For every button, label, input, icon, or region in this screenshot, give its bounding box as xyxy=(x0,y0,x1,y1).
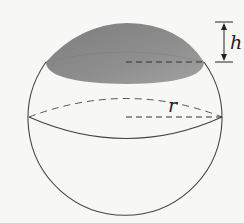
equator-front xyxy=(29,117,222,139)
equator-back-dashed xyxy=(29,99,222,118)
height-label: h xyxy=(230,31,242,53)
radius-label: r xyxy=(168,94,179,116)
sphere-cap-diagram: h r xyxy=(0,0,244,223)
diagram-canvas: h r xyxy=(0,0,244,223)
spherical-cap xyxy=(46,23,204,84)
